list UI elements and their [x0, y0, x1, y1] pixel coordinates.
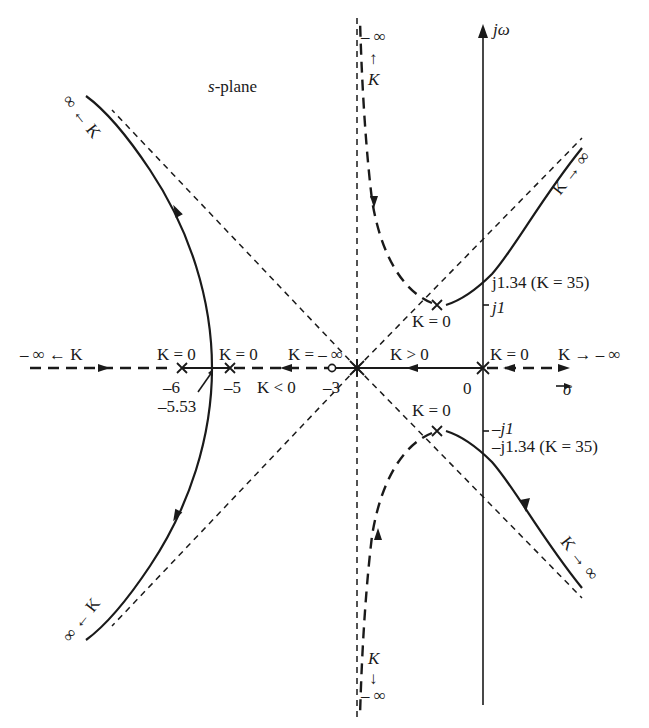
real-axis-arrow-icon [558, 364, 570, 372]
plane-title: s-plane [208, 77, 257, 96]
pole-marker-upper-complex [432, 300, 442, 310]
tick-label-neg3: –3 [322, 378, 340, 397]
branch-label-bottom-left: ∞ ← K [58, 594, 104, 646]
bottom-neg-k-label: K [367, 649, 381, 668]
pole-marker-lower-complex [432, 426, 442, 436]
branch-upper-left [86, 96, 212, 368]
pole-label-neg6: K = 0 [157, 345, 196, 364]
real-axis-arrow-icon [503, 364, 515, 372]
tick-label-neg-j1: –j1 [491, 419, 514, 438]
asymptote-upper-left [112, 110, 357, 368]
branch-label-top-left: ∞ ← K [59, 91, 105, 143]
left-axis-end-label: – ∞ ← K [19, 345, 83, 364]
top-neg-k-label: K [367, 70, 381, 89]
jw-axis-label: jω [491, 20, 510, 39]
imaginary-axis-arrow-icon [478, 24, 488, 38]
k-negative-label: K < 0 [257, 378, 296, 397]
origin-label: 0 [463, 379, 472, 398]
breakaway-pointer [198, 372, 212, 392]
k-positive-label: K > 0 [390, 345, 429, 364]
top-neg-arrow-icon: ↑ [369, 49, 378, 68]
pole-label-origin: K = 0 [490, 345, 529, 364]
sigma-axis-label: σ [563, 380, 572, 399]
direction-arrow-icon [374, 528, 382, 540]
k-neg-inf-label: K = – ∞ [288, 345, 343, 364]
direction-arrow-icon [520, 498, 530, 512]
breakaway-label: –5.53 [157, 397, 196, 416]
tick-label-neg5: –5 [223, 378, 241, 397]
asymptote-lower-left [112, 368, 357, 626]
direction-arrow-icon [370, 196, 378, 208]
real-axis-arrow-icon [406, 364, 418, 372]
pole-label-neg5: K = 0 [219, 345, 258, 364]
tick-label-neg6: –6 [162, 378, 180, 397]
pole-label-upper-complex: K = 0 [412, 312, 451, 331]
bottom-neg-inf-label: – ∞ [360, 686, 386, 705]
asymptote-upper-right [357, 138, 582, 368]
zeros [328, 364, 335, 371]
zero-marker-neg3 [328, 364, 335, 371]
crossing-label-upper: j1.34 (K = 35) [491, 273, 589, 292]
right-axis-end-label: K → – ∞ [558, 345, 621, 364]
real-axis [30, 364, 572, 389]
real-axis-arrow-icon [98, 364, 110, 372]
pole-label-lower-complex: K = 0 [412, 401, 451, 420]
branch-label-bottom-right: K → ∞ [557, 533, 603, 584]
crossing-label-lower: –j1.34 (K = 35) [491, 437, 598, 456]
root-locus-diagram: s-plane jω σ 0 –6 –5 –3 –5.53 j1 –j1 j1.… [0, 0, 649, 728]
tick-label-j1: j1 [490, 298, 505, 317]
asymptote-lower-right [357, 368, 582, 598]
branch-label-top-right: K → ∞ [548, 147, 594, 198]
real-axis-arrow-icon [280, 364, 292, 372]
top-neg-inf-label: – ∞ [360, 27, 386, 46]
